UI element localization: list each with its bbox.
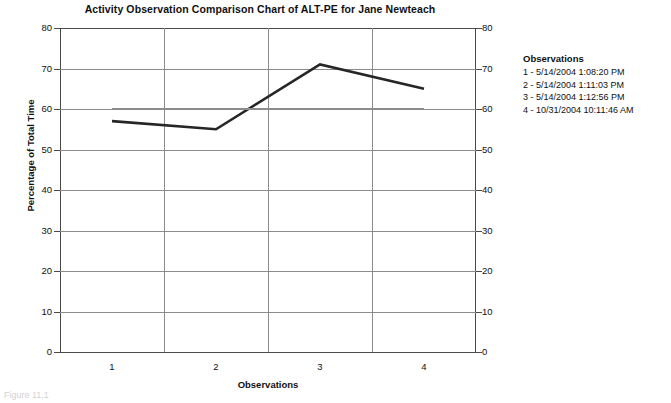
y-tick-label-right-40: 40 [482, 185, 516, 195]
y-tick-label-left-20: 20 [18, 266, 52, 276]
data-line-alt-pe [112, 64, 424, 129]
y-axis-label: Percentage of Total Time [25, 71, 36, 241]
legend-entry-3: 3 - 5/14/2004 1:12:56 PM [523, 91, 671, 104]
y-tick-label-right-50: 50 [482, 145, 516, 155]
y-tick-label-left-10: 10 [18, 307, 52, 317]
legend-entry-1: 1 - 5/14/2004 1:08:20 PM [523, 66, 671, 79]
legend-entry-2: 2 - 5/14/2004 1:11:03 PM [523, 79, 671, 92]
y-tick-mark-right-40 [476, 190, 482, 191]
y-tick-label-right-30: 30 [482, 226, 516, 236]
y-tick-mark-right-20 [476, 271, 482, 272]
y-tick-label-right-80: 80 [482, 23, 516, 33]
y-tick-label-right-10: 10 [482, 307, 516, 317]
x-tick-label-3: 3 [300, 362, 340, 372]
chart-title: Activity Observation Comparison Chart of… [0, 3, 520, 15]
x-axis-label: Observations [60, 379, 476, 390]
y-tick-label-left-0: 0 [18, 347, 52, 357]
y-tick-label-right-0: 0 [482, 347, 516, 357]
data-series-layer [60, 28, 476, 352]
gridline-y-0 [60, 352, 476, 353]
x-tick-label-2: 2 [196, 362, 236, 372]
y-tick-mark-right-0 [476, 352, 482, 353]
y-tick-label-right-70: 70 [482, 64, 516, 74]
y-tick-label-left-40: 40 [18, 185, 52, 195]
y-tick-label-right-20: 20 [482, 266, 516, 276]
plot-area [60, 28, 476, 352]
y-tick-label-left-50: 50 [18, 145, 52, 155]
y-tick-mark-right-80 [476, 28, 482, 29]
x-tick-label-4: 4 [404, 362, 444, 372]
y-tick-mark-right-60 [476, 109, 482, 110]
legend: Observations 1 - 5/14/2004 1:08:20 PM2 -… [523, 53, 671, 116]
y-tick-label-right-60: 60 [482, 104, 516, 114]
legend-entry-4: 4 - 10/31/2004 10:11:46 AM [523, 104, 671, 117]
x-tick-label-1: 1 [92, 362, 132, 372]
y-tick-label-left-30: 30 [18, 226, 52, 236]
y-tick-mark-right-50 [476, 150, 482, 151]
legend-title: Observations [523, 53, 671, 64]
legend-entry-list: 1 - 5/14/2004 1:08:20 PM2 - 5/14/2004 1:… [523, 66, 671, 116]
y-tick-label-left-80: 80 [18, 23, 52, 33]
y-tick-label-left-70: 70 [18, 64, 52, 74]
y-tick-mark-right-70 [476, 69, 482, 70]
y-tick-mark-right-30 [476, 231, 482, 232]
figure-caption: Figure 11.1 [4, 390, 49, 400]
y-tick-mark-right-10 [476, 312, 482, 313]
y-tick-label-left-60: 60 [18, 104, 52, 114]
